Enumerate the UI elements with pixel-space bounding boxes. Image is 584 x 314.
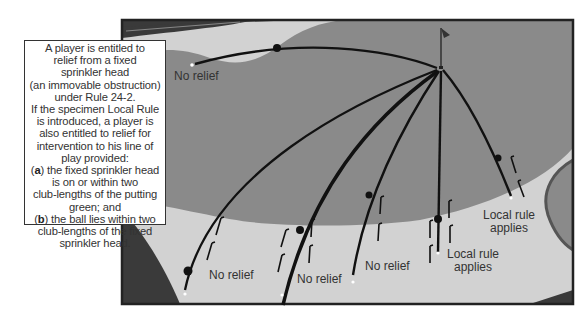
sprinkler-head-icon <box>273 44 281 52</box>
label-local-rule-2b: applies <box>490 221 528 235</box>
box-line: club-lengths of the fixed <box>25 225 165 237</box>
box-line: relief from a fixed <box>25 54 165 66</box>
box-line: also entitled to relief for <box>25 127 165 139</box>
box-line: If the specimen Local Rule <box>25 103 165 115</box>
box-line: sprinkler head. <box>25 237 165 249</box>
label-no-relief-3: No relief <box>365 259 410 273</box>
label-no-relief-1: No relief <box>209 268 254 282</box>
item-a: (a) the fixed sprinkler head <box>25 164 165 176</box>
sprinkler-head-icon <box>434 215 442 223</box>
item-b: (b) the ball lies within two <box>25 213 165 225</box>
item-a-marker: a <box>34 164 40 176</box>
ball-icon <box>190 63 194 67</box>
box-line: green; and <box>25 201 165 213</box>
sprinkler-head-icon <box>296 226 304 234</box>
label-no-relief-2: No relief <box>297 272 342 286</box>
box-line: club-lengths of the putting <box>25 188 165 200</box>
label-no-relief-top: No relief <box>174 69 219 83</box>
box-line: is on or within two <box>25 176 165 188</box>
ball-icon <box>509 196 512 199</box>
label-local-rule-2a: Local rule <box>483 208 535 222</box>
box-line: (an immovable obstruction) <box>25 79 165 91</box>
rule-explanation-box: A player is entitled to relief from a fi… <box>24 40 166 225</box>
box-line: A player is entitled to <box>25 42 165 54</box>
box-line: intervention to his line of <box>25 140 165 152</box>
item-b-marker: b <box>38 213 45 225</box>
box-line: is introduced, a player is <box>25 115 165 127</box>
ball-icon <box>436 251 439 254</box>
box-line: under Rule 24-2. <box>25 91 165 103</box>
box-line: play provided: <box>25 152 165 164</box>
sprinkler-head-icon <box>184 267 193 276</box>
label-local-rule-1b: applies <box>454 260 492 274</box>
ball-icon <box>351 280 354 283</box>
label-local-rule-1a: Local rule <box>447 247 499 261</box>
ball-icon <box>183 292 186 295</box>
sprinkler-head-icon <box>495 155 502 162</box>
box-line: sprinkler head <box>25 66 165 78</box>
ball-icon <box>280 293 283 296</box>
sprinkler-head-icon <box>366 192 373 199</box>
